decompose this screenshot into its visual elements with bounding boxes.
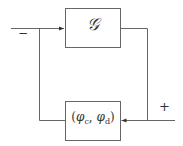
block-g-label: 𝒢 — [65, 14, 121, 34]
output-line — [121, 29, 148, 121]
minus-sign: − — [18, 26, 28, 40]
block-phi-label: (φc, φd) — [65, 110, 121, 126]
plus-sign: + — [159, 99, 170, 114]
